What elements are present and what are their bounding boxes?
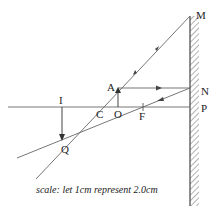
ray-reflected-through-focus [17,88,190,158]
mirror [190,16,199,206]
label-m: M [196,9,206,21]
arrow-right-icon [156,86,162,91]
arrow-up-icon [155,46,159,51]
image-arrowhead-icon [59,134,65,141]
label-n: N [201,85,209,97]
label-a: A [107,81,115,93]
label-q: Q [61,143,69,155]
arrow-left-icon [157,97,164,101]
label-i: I [59,94,63,106]
label-o: O [114,108,122,120]
label-c: C [96,108,103,120]
mirror-hatching [190,16,199,206]
scale-caption: scale: let 1cm represent 2.0cm [36,184,158,195]
ray-diagram: M N P A C O F I Q scale: let 1cm represe… [0,0,218,215]
label-p: P [201,102,207,114]
label-f: F [139,110,145,122]
